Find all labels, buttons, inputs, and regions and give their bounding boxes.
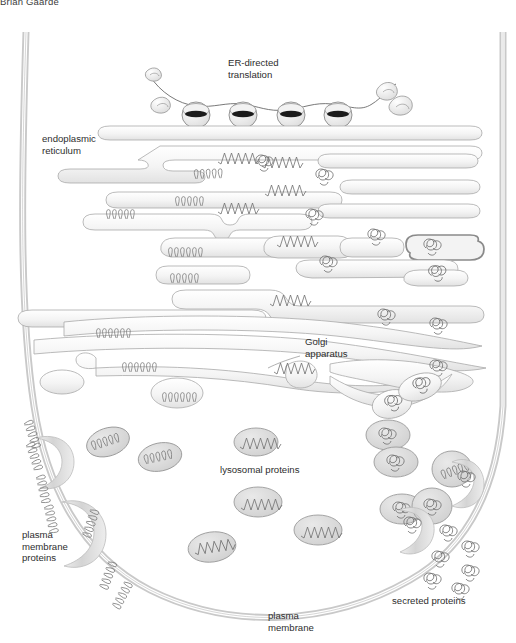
label-line: membrane xyxy=(22,541,68,552)
label-plasma-membrane-proteins: plasma membrane proteins xyxy=(22,529,71,563)
label-line: plasma xyxy=(268,610,300,621)
vesicle-lysosomal-protein xyxy=(234,487,282,517)
vesicle-lysosomal-protein xyxy=(294,515,342,545)
golgi-vesicle xyxy=(40,370,84,394)
label-line: apparatus xyxy=(305,348,348,359)
er-cisterna xyxy=(340,238,404,257)
breadcrumb-bar: Brian Gaarde xyxy=(0,0,516,14)
er-cisterna xyxy=(318,204,480,218)
label-line: Golgi xyxy=(305,336,327,347)
ribosome-subunit xyxy=(145,68,161,81)
figure-canvas: ER-directed translation endoplasmic reti… xyxy=(0,14,516,643)
label-line: proteins xyxy=(22,552,56,563)
er-cisterna xyxy=(318,154,478,168)
secretory-pathway-figure: ER-directed translation endoplasmic reti… xyxy=(0,14,516,643)
label-line: membrane xyxy=(268,622,314,633)
vesicle-membrane-protein xyxy=(151,378,203,408)
er-cisterna-highlighted xyxy=(406,235,484,260)
label-lysosomal-proteins: lysosomal proteins xyxy=(220,464,300,475)
label-secreted-proteins: secreted proteins xyxy=(392,595,466,606)
breadcrumb: Brian Gaarde xyxy=(0,0,59,7)
coil-motif xyxy=(112,581,133,610)
label-line: plasma xyxy=(22,529,54,540)
label-line: endoplasmic xyxy=(42,133,96,144)
diagram-page: Brian Gaarde xyxy=(0,0,516,643)
er-cisterna xyxy=(340,180,480,194)
golgi-cisterna xyxy=(286,361,317,388)
tangle-motif xyxy=(462,541,479,557)
vesicle-secreted-protein xyxy=(366,420,410,450)
tangle-motif xyxy=(424,573,441,589)
label-line: translation xyxy=(228,69,272,80)
label-line: reticulum xyxy=(42,145,81,156)
er-cisterna xyxy=(404,270,468,286)
vesicle-secreted-protein xyxy=(374,447,418,477)
label-line: ER-directed xyxy=(228,57,279,68)
tangle-motif xyxy=(462,565,479,581)
er-cisterna xyxy=(156,266,250,284)
er-cisterna xyxy=(98,126,482,140)
